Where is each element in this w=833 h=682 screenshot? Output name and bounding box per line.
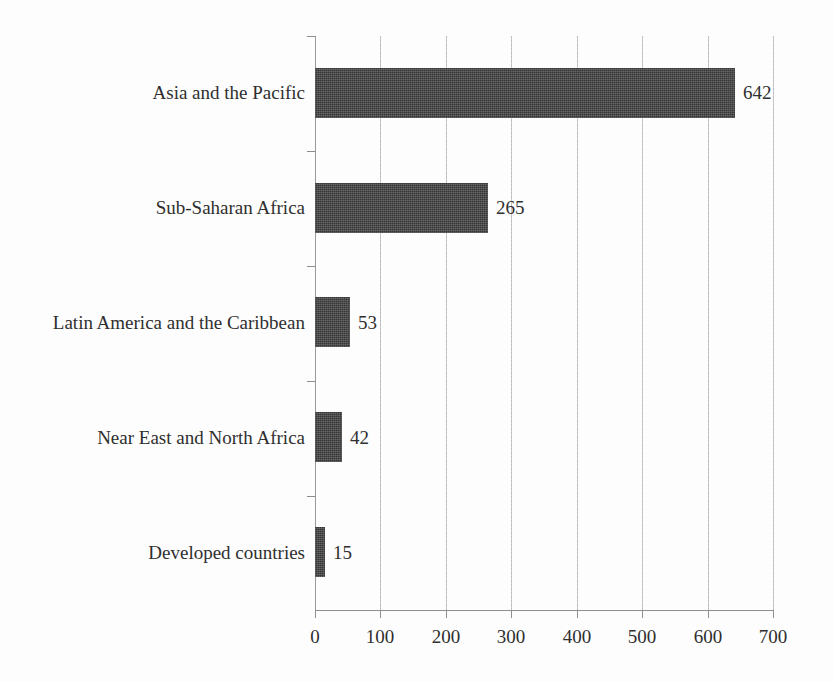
category-label-sub-saharan-africa: Sub-Saharan Africa: [0, 197, 305, 219]
x-tick-300: [511, 611, 512, 618]
x-tick-500: [642, 611, 643, 618]
category-label-latin-america-and-the-caribbean: Latin America and the Caribbean: [0, 312, 305, 334]
x-tick-label-300: 300: [481, 626, 541, 648]
gridline-300: [511, 36, 512, 610]
gridline-200: [446, 36, 447, 610]
x-tick-label-100: 100: [350, 626, 410, 648]
x-tick-100: [380, 611, 381, 618]
bar-near-east-and-north-africa: [315, 412, 342, 462]
category-label-asia-and-the-pacific: Asia and the Pacific: [0, 82, 305, 104]
x-tick-label-400: 400: [547, 626, 607, 648]
gridline-400: [577, 36, 578, 610]
value-label-sub-saharan-africa: 265: [496, 197, 525, 219]
value-label-latin-america-and-the-caribbean: 53: [358, 312, 377, 334]
gridline-500: [642, 36, 643, 610]
gridline-100: [380, 36, 381, 610]
x-tick-label-500: 500: [612, 626, 672, 648]
value-label-developed-countries: 15: [333, 542, 352, 564]
x-tick-700: [773, 611, 774, 618]
gridline-600: [708, 36, 709, 610]
category-tick-3: [307, 381, 315, 382]
category-tick-2: [307, 266, 315, 267]
category-tick-4: [307, 496, 315, 497]
x-tick-label-200: 200: [416, 626, 476, 648]
bar-developed-countries: [315, 527, 325, 577]
plot-area: [315, 36, 773, 610]
bar-latin-america-and-the-caribbean: [315, 297, 350, 347]
value-label-near-east-and-north-africa: 42: [350, 427, 369, 449]
category-label-developed-countries: Developed countries: [0, 542, 305, 564]
bar-asia-and-the-pacific: [315, 68, 735, 118]
category-tick-1: [307, 151, 315, 152]
x-tick-200: [446, 611, 447, 618]
bar-sub-saharan-africa: [315, 183, 488, 233]
gridline-700: [773, 36, 774, 610]
x-tick-label-600: 600: [678, 626, 738, 648]
x-axis-line: [315, 610, 774, 611]
category-label-near-east-and-north-africa: Near East and North Africa: [0, 427, 305, 449]
bar-chart: Asia and the Pacific Sub-Saharan Africa …: [0, 0, 833, 682]
value-label-asia-and-the-pacific: 642: [743, 82, 772, 104]
x-tick-label-700: 700: [743, 626, 803, 648]
category-tick-0: [307, 36, 315, 37]
x-tick-0: [315, 611, 316, 618]
x-tick-600: [708, 611, 709, 618]
x-tick-label-0: 0: [285, 626, 345, 648]
x-tick-400: [577, 611, 578, 618]
